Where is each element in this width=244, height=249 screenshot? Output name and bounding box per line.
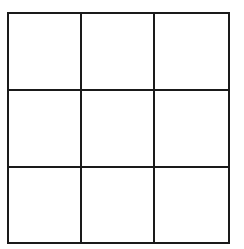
cell-r2-c3[interactable] (155, 91, 228, 168)
cell-r3-c2[interactable] (82, 168, 155, 242)
cell-r1-c2[interactable] (82, 14, 155, 91)
cell-r2-c2[interactable] (82, 91, 155, 168)
cell-r1-c3[interactable] (155, 14, 228, 91)
cell-r2-c1[interactable] (9, 91, 82, 168)
cell-r3-c1[interactable] (9, 168, 82, 242)
cell-r3-c3[interactable] (155, 168, 228, 242)
cell-r1-c1[interactable] (9, 14, 82, 91)
tic-tac-toe-board (7, 12, 230, 244)
